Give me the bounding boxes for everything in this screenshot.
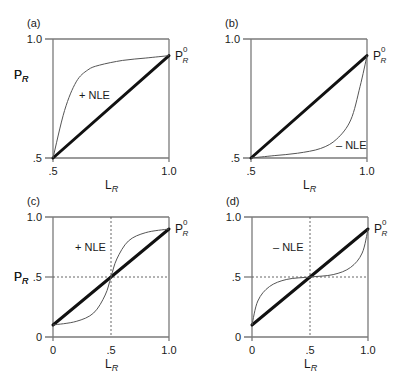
y-tick-label: 1.0 [225, 33, 240, 45]
x-axis-label: LR [105, 178, 119, 194]
panel-c: (c)1.0.500.51.0PRLRP0R+ NLE [14, 195, 188, 373]
x-tick-label: 1.0 [161, 344, 176, 356]
figure: (a)1.0.5.51.0PRLRP0R+ NLE(b)1.0.5.51.0PR… [0, 0, 398, 386]
x-axis-label: LR [303, 178, 317, 194]
panel-label: (a) [27, 17, 40, 29]
endpoint-label: P0R [175, 218, 188, 238]
y-tick-label: 0 [235, 331, 241, 343]
endpoint-label: P0R [374, 218, 387, 238]
x-tick-label: 1.0 [359, 165, 374, 177]
x-tick-label: .5 [246, 165, 255, 177]
panel-label: (b) [225, 17, 238, 29]
x-tick-label: 0 [249, 344, 255, 356]
y-tick-label: 0 [36, 331, 42, 343]
panel-label: (c) [27, 195, 40, 207]
y-tick-label: .5 [33, 271, 42, 283]
x-tick-label: .5 [305, 344, 314, 356]
panel-b: (b)1.0.5.51.0PRLRP0R– NLE [14, 17, 386, 194]
x-tick-label: .5 [48, 165, 57, 177]
x-tick-label: 1.0 [161, 165, 176, 177]
x-axis-label: LR [304, 357, 318, 373]
y-tick-label: 1.0 [27, 211, 42, 223]
panel-d: (d)1.0.500.51.0PRLRP0R– NLE [14, 195, 387, 373]
y-axis-label: PR [14, 270, 29, 286]
y-tick-label: .5 [232, 271, 241, 283]
linear-line [53, 56, 169, 158]
y-tick-label: 1.0 [27, 33, 42, 45]
panel-a: (a)1.0.5.51.0PRLRP0R+ NLE [14, 17, 188, 194]
endpoint-label: P0R [175, 45, 188, 65]
nle-label: + NLE [79, 89, 110, 101]
x-tick-label: 0 [50, 344, 56, 356]
nle-label: + NLE [75, 241, 106, 253]
y-tick-label: 1.0 [226, 211, 241, 223]
y-tick-label: .5 [33, 152, 42, 164]
x-axis-label: LR [105, 357, 119, 373]
panel-label: (d) [226, 195, 239, 207]
x-tick-label: .5 [106, 344, 115, 356]
y-axis-label: PR [14, 68, 29, 84]
y-tick-label: .5 [231, 152, 240, 164]
x-tick-label: 1.0 [360, 344, 375, 356]
chart-canvas: (a)1.0.5.51.0PRLRP0R+ NLE(b)1.0.5.51.0PR… [0, 0, 398, 386]
nle-label: – NLE [273, 241, 304, 253]
endpoint-label: P0R [373, 45, 386, 65]
nle-label: – NLE [336, 139, 367, 151]
